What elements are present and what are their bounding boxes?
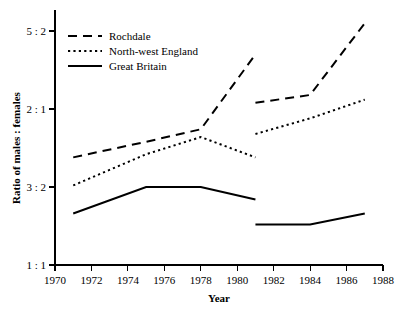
x-axis-tick-label: 1970	[44, 274, 67, 286]
legend-label-north-west-england: North-west England	[109, 45, 198, 57]
series-line-rochdale	[255, 23, 364, 103]
x-axis-tick-label: 1974	[117, 274, 140, 286]
x-axis-title: Year	[208, 292, 230, 304]
legend-label-rochdale: Rochdale	[109, 30, 151, 42]
chart-canvas: 1 : 13 : 22 : 15 : 219701972197419761978…	[0, 0, 404, 315]
line-chart: 1 : 13 : 22 : 15 : 219701972197419761978…	[0, 0, 404, 315]
x-axis-tick-label: 1986	[336, 274, 359, 286]
y-axis-tick-label: 2 : 1	[26, 103, 46, 115]
y-axis-tick-label: 5 : 2	[26, 25, 46, 37]
x-axis-tick-label: 1982	[263, 274, 285, 286]
series-line-great-britain	[73, 187, 255, 214]
series-line-north-west-england	[255, 100, 364, 134]
series-line-north-west-england	[73, 137, 255, 185]
y-axis-title: Ratio of males : females	[10, 91, 22, 204]
x-axis-tick-label: 1972	[80, 274, 102, 286]
series-line-great-britain	[255, 214, 364, 225]
legend-label-great-britain: Great Britain	[109, 60, 167, 72]
x-axis-tick-label: 1978	[190, 274, 213, 286]
x-axis-tick-label: 1988	[372, 274, 395, 286]
x-axis-tick-label: 1980	[226, 274, 249, 286]
x-axis-tick-label: 1976	[153, 274, 176, 286]
axis-frame	[55, 10, 383, 265]
x-axis-tick-label: 1984	[299, 274, 322, 286]
y-axis-tick-label: 3 : 2	[26, 181, 46, 193]
y-axis-tick-label: 1 : 1	[26, 259, 46, 271]
